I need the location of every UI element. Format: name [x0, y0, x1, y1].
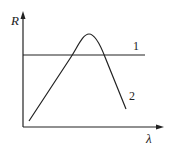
- diagram: R λ 1 2: [0, 0, 172, 151]
- plot-area: [0, 0, 172, 151]
- curve-2: [29, 34, 126, 121]
- curve-2-label: 2: [129, 90, 135, 102]
- x-axis-label: λ: [146, 132, 152, 145]
- x-axis-arrow-icon: [156, 125, 164, 130]
- line-1-label: 1: [133, 40, 139, 52]
- y-axis-label: R: [11, 14, 19, 27]
- y-axis-arrow-icon: [21, 11, 26, 19]
